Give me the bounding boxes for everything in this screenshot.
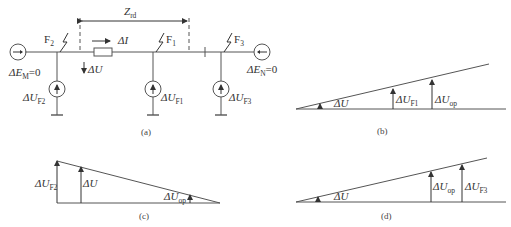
d-label-du: ΔU xyxy=(333,190,349,202)
fault-f1-lightning-icon xyxy=(156,33,164,52)
panel-b-labels: ΔU ΔUF1 ΔUop (b) xyxy=(333,93,457,136)
c-label-duf2: ΔUF2 xyxy=(34,177,58,192)
fault-f3-lightning-icon xyxy=(224,33,232,52)
panel-a-labels: Zrd ΔI ΔU F2 F1 F3 ΔUF2 ΔUF1 ΔUF3 ΔEM=0 … xyxy=(8,5,278,137)
fault-f1-label: F1 xyxy=(166,33,176,48)
emf-left-label: ΔEM=0 xyxy=(8,66,41,81)
source-f2-label: ΔUF2 xyxy=(22,91,46,106)
d-label-duf3: ΔUF3 xyxy=(464,180,488,195)
panel-d-labels: ΔU ΔUop ΔUF3 (d) xyxy=(333,180,488,221)
b-label-duop: ΔUop xyxy=(434,93,457,108)
b-label-duf1: ΔUF1 xyxy=(395,93,419,108)
caption-d: (d) xyxy=(381,211,392,221)
panel-c-diagram xyxy=(57,161,220,203)
fault-f2-lightning-icon xyxy=(60,33,68,52)
impedance-label: Zrd xyxy=(124,5,137,20)
source-f3-label: ΔUF3 xyxy=(228,91,252,106)
diagram-canvas: Zrd ΔI ΔU F2 F1 F3 ΔUF2 ΔUF1 ΔUF3 ΔEM=0 … xyxy=(0,0,511,227)
source-f1-label: ΔUF1 xyxy=(160,91,184,106)
b-label-du: ΔU xyxy=(333,97,349,109)
caption-b: (b) xyxy=(377,126,388,136)
caption-a: (a) xyxy=(141,127,151,137)
emf-right-label: ΔEN=0 xyxy=(246,63,278,78)
fault-f3-label: F3 xyxy=(234,33,244,48)
c-label-du: ΔU xyxy=(82,177,98,189)
voltage-drop-label: ΔU xyxy=(87,63,103,75)
current-label: ΔI xyxy=(117,34,129,46)
caption-c: (c) xyxy=(139,211,149,221)
d-label-duop: ΔUop xyxy=(432,180,455,195)
impedance-resistor-icon xyxy=(94,48,112,56)
fault-f2-label: F2 xyxy=(44,33,54,48)
